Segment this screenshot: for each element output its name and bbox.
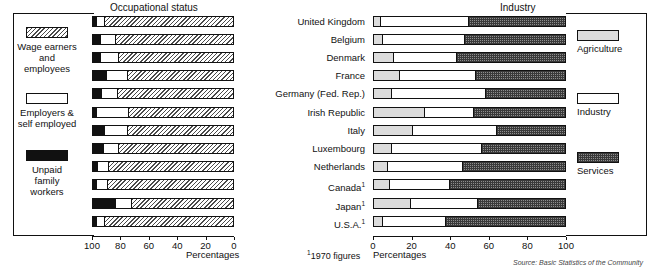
- bar-segment-hatch: [118, 144, 233, 153]
- source-note: Source: Basic Statistics of the Communit…: [513, 259, 643, 266]
- bar-segment-serv: [496, 126, 565, 135]
- bar-segment-ind: [391, 89, 485, 98]
- bar-occupational-status-netherlands: [92, 161, 234, 172]
- bar-segment-serv: [481, 144, 565, 153]
- bar-segment-white: [96, 217, 104, 226]
- legend-label-employers: Employers & self employed: [9, 107, 85, 129]
- bar-segment-white: [115, 199, 130, 208]
- bar-occupational-status-u-s-a: [92, 216, 234, 227]
- bar-occupational-status-luxembourg: [92, 143, 234, 154]
- bar-segment-white: [96, 180, 107, 189]
- bar-segment-ind: [424, 108, 474, 117]
- bar-segment-hatch: [131, 199, 233, 208]
- legend-item-wage-earners: Wage earners and employees: [9, 27, 85, 74]
- bar-industry-japan: [373, 198, 566, 209]
- axis-line: [373, 236, 566, 237]
- bar-segment-agri: [374, 199, 410, 208]
- bar-segment-white: [100, 35, 115, 44]
- legend-item-unpaid: Unpaid family workers: [9, 150, 85, 197]
- bar-segment-agri: [374, 144, 391, 153]
- bar-segment-hatch: [127, 126, 233, 135]
- country-label-u-s-a: U.S.A.1: [240, 216, 365, 230]
- legend-item-agriculture: Agriculture: [577, 30, 641, 54]
- legend-item-services: Services: [577, 152, 641, 176]
- bar-segment-agri: [374, 35, 382, 44]
- axis-tick-label: 100: [551, 241, 581, 251]
- bar-segment-hatch: [128, 108, 233, 117]
- country-label-japan: Japan1: [240, 198, 365, 212]
- bar-industry-united-kingdom: [373, 16, 566, 27]
- bar-segment-ind: [399, 71, 475, 80]
- legend-label-agriculture: Agriculture: [577, 43, 641, 54]
- bar-segment-hatch: [104, 17, 233, 26]
- right-axis-caption: Percentages: [373, 249, 426, 260]
- bar-occupational-status-belgium: [92, 34, 234, 45]
- bar-segment-agri: [374, 217, 382, 226]
- bar-industry-france: [373, 70, 566, 81]
- bar-industry-luxembourg: [373, 143, 566, 154]
- bar-segment-ind: [389, 180, 448, 189]
- bar-segment-serv: [449, 180, 566, 189]
- bar-occupational-status-irish-republic: [92, 107, 234, 118]
- bar-segment-black: [93, 199, 115, 208]
- bar-segment-white: [96, 17, 104, 26]
- legend-label-wage-earners: Wage earners and employees: [9, 41, 85, 74]
- footnote-text: 1970 figures: [311, 251, 361, 261]
- bar-segment-serv: [462, 162, 565, 171]
- bar-industry-denmark: [373, 52, 566, 63]
- bar-segment-serv: [477, 199, 565, 208]
- axis-line: [92, 236, 234, 237]
- bar-industry-canada: [373, 179, 566, 190]
- legend-label-unpaid: Unpaid family workers: [9, 164, 85, 197]
- bar-industry-belgium: [373, 34, 566, 45]
- bar-industry-u-s-a: [373, 216, 566, 227]
- bar-segment-ind: [391, 144, 481, 153]
- legend-item-employers: Employers & self employed: [9, 93, 85, 129]
- bar-segment-white: [96, 108, 128, 117]
- bar-segment-ind: [382, 35, 464, 44]
- bar-segment-white: [106, 71, 127, 80]
- axis-tick-label: 60: [474, 241, 504, 251]
- legend-swatch-industry: [577, 93, 619, 104]
- bar-industry-irish-republic: [373, 107, 566, 118]
- bar-segment-white: [100, 53, 118, 62]
- bar-segment-ind: [382, 217, 445, 226]
- country-label-germany-fed-rep: Germany (Fed. Rep.): [240, 88, 365, 99]
- bar-segment-agri: [374, 180, 389, 189]
- footnote-marker: 1: [361, 200, 365, 207]
- bar-industry-italy: [373, 125, 566, 136]
- country-label-belgium: Belgium: [240, 34, 365, 45]
- bar-segment-hatch: [104, 217, 233, 226]
- country-label-irish-republic: Irish Republic: [240, 107, 365, 118]
- bar-segment-serv: [468, 17, 565, 26]
- footnote: 11970 figures: [307, 249, 360, 261]
- bar-segment-serv: [485, 89, 565, 98]
- country-label-united-kingdom: United Kingdom: [240, 16, 365, 27]
- bar-segment-hatch: [108, 162, 233, 171]
- bar-segment-ind: [380, 17, 468, 26]
- country-label-netherlands: Netherlands: [240, 161, 365, 172]
- bar-segment-serv: [456, 53, 565, 62]
- bar-segment-hatch: [107, 180, 233, 189]
- axis-tick-label: 40: [435, 241, 465, 251]
- bar-segment-hatch: [127, 71, 233, 80]
- legend-swatch-employers: [26, 93, 68, 104]
- bar-segment-black: [93, 126, 104, 135]
- bar-segment-ind: [393, 53, 456, 62]
- country-label-luxembourg: Luxembourg: [240, 143, 365, 154]
- bar-industry-netherlands: [373, 161, 566, 172]
- axis-tick-label: 80: [105, 241, 135, 251]
- bar-segment-serv: [445, 217, 565, 226]
- legend-label-services: Services: [577, 165, 641, 176]
- bar-segment-ind: [412, 126, 496, 135]
- legend-swatch-agriculture: [577, 30, 619, 41]
- figure-root: Occupational status Wage earners and emp…: [0, 0, 649, 271]
- footnote-marker: 1: [361, 181, 365, 188]
- bar-segment-white: [97, 162, 108, 171]
- bar-segment-agri: [374, 126, 412, 135]
- bar-industry-germany-fed-rep: [373, 88, 566, 99]
- left-axis-caption: Percentages: [186, 249, 239, 260]
- axis-tick-label: 80: [512, 241, 542, 251]
- legend-label-industry: Industry: [577, 106, 641, 117]
- bar-segment-agri: [374, 53, 393, 62]
